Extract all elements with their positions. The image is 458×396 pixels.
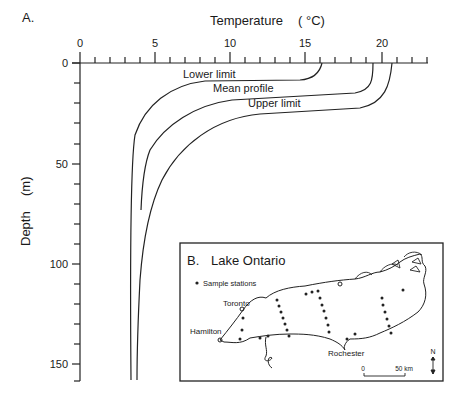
x-tick-label: 0: [77, 37, 83, 49]
panel-b-label: B.: [187, 253, 199, 268]
panel-a-label: A.: [22, 10, 34, 25]
x-axis-title: Temperature: [210, 13, 283, 28]
panel-b-title: Lake Ontario: [211, 253, 285, 268]
mean-profile-label: Mean profile: [213, 82, 274, 94]
y-axis: [72, 63, 80, 381]
y-tick-label: 150: [50, 358, 68, 370]
y-tick-label: 50: [56, 158, 68, 170]
x-axis: [72, 52, 428, 63]
svg-text:Depth: Depth: [18, 211, 33, 246]
x-tick-label: 5: [152, 37, 158, 49]
scale-end: 50 km: [395, 365, 413, 372]
city-label-rochester: Rochester: [328, 349, 365, 358]
x-axis-unit: ( °C): [298, 13, 325, 28]
y-tick-label: 0: [62, 57, 68, 69]
lower-limit-label: Lower limit: [183, 68, 236, 80]
inset-map: B. Lake Ontario Sample stations Toronto …: [180, 243, 443, 381]
x-tick-label: 15: [299, 37, 311, 49]
y-tick-label: 100: [50, 258, 68, 270]
x-tick-label: 10: [224, 37, 236, 49]
scale-start: 0: [361, 365, 365, 372]
upper-limit-label: Upper limit: [248, 97, 301, 109]
legend-label: Sample stations: [203, 279, 257, 288]
x-tick-label: 20: [376, 37, 388, 49]
y-axis-title: Depth (m): [18, 177, 33, 247]
city-label-hamilton: Hamilton: [190, 327, 222, 336]
svg-text:(m): (m): [18, 177, 33, 197]
legend-dot-icon: [195, 281, 198, 284]
north-label: N: [430, 348, 435, 355]
figure: A. Temperature ( °C) 0 5 10 15 20: [0, 0, 458, 396]
city-label-toronto: Toronto: [223, 299, 250, 308]
